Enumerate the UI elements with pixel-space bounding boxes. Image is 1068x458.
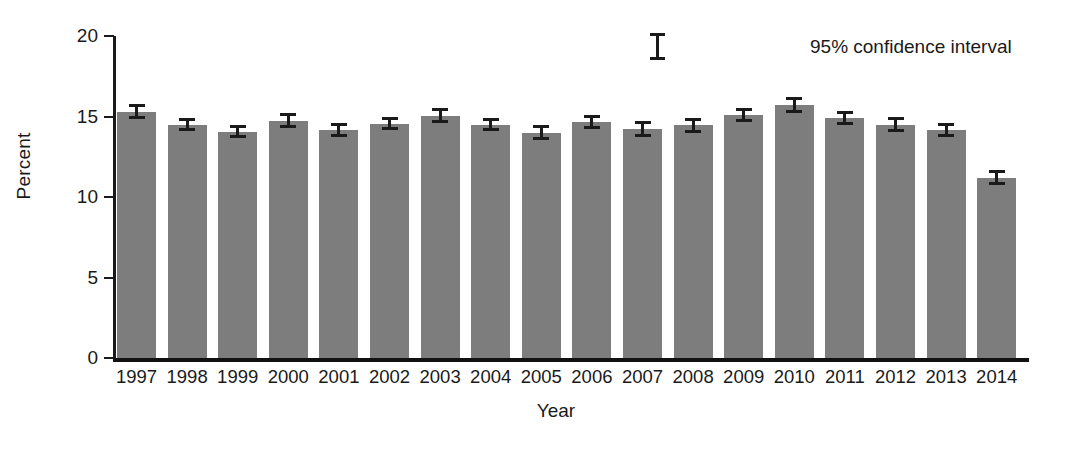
bar: [572, 122, 611, 358]
y-tick-mark: [104, 116, 114, 118]
error-bar: [786, 97, 802, 113]
bar: [218, 132, 257, 358]
bar: [674, 125, 713, 358]
y-tick-label: 10: [52, 187, 98, 206]
error-bar: [584, 115, 600, 129]
y-tick-mark: [104, 35, 114, 37]
y-axis-title: Percent: [13, 106, 35, 226]
bar: [319, 130, 358, 358]
y-axis-line: [113, 36, 116, 360]
error-bar: [837, 111, 853, 125]
x-axis-title: Year: [0, 400, 1068, 422]
error-bar: [179, 118, 195, 131]
y-tick-label: 5: [52, 268, 98, 287]
error-bar: [888, 117, 904, 131]
error-bar: [533, 125, 549, 139]
y-tick-mark: [104, 277, 114, 279]
bar: [168, 125, 207, 358]
error-bar: [432, 108, 448, 122]
bar-chart: Percent 05101520 19971998199920002001200…: [0, 0, 1068, 458]
bar: [471, 125, 510, 358]
error-bar: [989, 170, 1005, 184]
bar: [927, 130, 966, 358]
x-tick-label: 2014: [967, 368, 1027, 387]
error-bar: [635, 121, 651, 137]
bar: [825, 118, 864, 358]
x-axis-line: [113, 358, 1029, 362]
error-bar: [938, 123, 954, 137]
error-bar: [331, 123, 347, 137]
bar: [269, 121, 308, 358]
error-bar: [129, 104, 145, 118]
y-tick-label: 15: [52, 107, 98, 126]
legend-label-confidence-interval: 95% confidence interval: [810, 36, 1012, 58]
y-tick-mark: [104, 196, 114, 198]
y-tick-label: 0: [52, 348, 98, 367]
x-axis-title-text: Year: [537, 400, 575, 421]
bar: [370, 124, 409, 358]
bar: [623, 129, 662, 358]
bar: [977, 178, 1016, 358]
bar: [421, 116, 460, 358]
bar: [724, 115, 763, 358]
error-bar-legend-icon: [650, 33, 665, 60]
bar: [876, 125, 915, 358]
y-tick-label: 20: [52, 26, 98, 45]
bar: [775, 105, 814, 358]
bar: [522, 133, 561, 358]
bar: [117, 112, 156, 358]
error-bar: [685, 118, 701, 132]
error-bar: [736, 108, 752, 122]
error-bar: [483, 118, 499, 131]
error-bar: [280, 113, 296, 127]
error-bar: [230, 125, 246, 138]
error-bar: [382, 117, 398, 130]
